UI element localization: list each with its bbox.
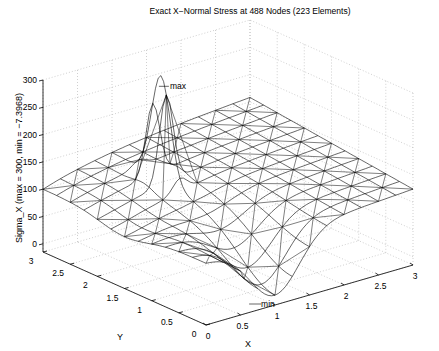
z-tick-label: 100 <box>23 184 37 194</box>
mesh-edge <box>57 105 264 195</box>
y-tick-label: 3 <box>29 256 34 266</box>
x-tick-label: 0.5 <box>237 321 249 331</box>
x-tick-label: 1.5 <box>306 301 318 311</box>
min-annotation: min <box>261 299 275 309</box>
max-annotation: max <box>170 81 187 91</box>
y-tick-label: 0 <box>192 329 197 339</box>
mesh-edge <box>60 179 223 262</box>
y-tick-label: 0.5 <box>161 317 173 327</box>
z-tick-label: 250 <box>23 102 37 112</box>
y-tick-label: 2.5 <box>52 268 64 278</box>
stress-mesh <box>43 76 413 296</box>
y-tick-label: 1.5 <box>107 293 119 303</box>
annotations: maxmin <box>159 81 275 309</box>
tick-labels: 00.511.522.5300.511.522.5305010015020025… <box>23 75 418 341</box>
y-tick-label: 1 <box>137 305 142 315</box>
x-tick-label: 0 <box>206 331 211 341</box>
z-tick-label: 50 <box>28 212 38 222</box>
z-axis-label: Sigma_X (max = 300, min = −7.3968) <box>14 93 24 243</box>
mesh-edge <box>112 76 275 296</box>
x-tick-label: 2.5 <box>375 281 387 291</box>
chart-title: Exact X−Normal Stress at 488 Nodes (223 … <box>149 6 350 16</box>
z-tick-label: 0 <box>32 239 37 249</box>
y-axis-label: Y <box>117 332 123 342</box>
x-tick-label: 1 <box>275 311 280 321</box>
mesh-edge <box>206 189 413 296</box>
x-tick-label: 3 <box>413 271 418 281</box>
z-tick-label: 150 <box>23 157 37 167</box>
z-tick-label: 300 <box>23 75 37 85</box>
z-tick-label: 200 <box>23 130 37 140</box>
axes <box>39 80 413 325</box>
x-tick-label: 2 <box>344 291 349 301</box>
mesh-edge <box>138 151 345 241</box>
mesh-edge <box>97 95 304 219</box>
y-tick-label: 2 <box>83 280 88 290</box>
x-axis-label: X <box>245 339 251 349</box>
surface-plot: 00.511.522.5300.511.522.5305010015020025… <box>0 0 439 351</box>
